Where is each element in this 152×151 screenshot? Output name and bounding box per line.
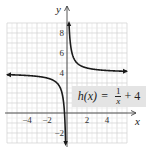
y-tick-label: −2 bbox=[54, 128, 64, 138]
fraction: 1 x bbox=[115, 87, 122, 106]
y-tick-label: 6 bbox=[60, 48, 65, 58]
x-tick-label: −2 bbox=[42, 115, 52, 125]
function-graph: xy−4−224−2468 bbox=[0, 0, 152, 151]
fraction-denominator: x bbox=[116, 97, 120, 106]
y-tick-label: 4 bbox=[60, 68, 65, 78]
x-tick-label: −4 bbox=[22, 115, 32, 125]
x-axis-label: x bbox=[134, 115, 140, 127]
x-tick-label: 2 bbox=[85, 115, 90, 125]
y-tick-label: 8 bbox=[60, 28, 65, 38]
y-axis-label: y bbox=[55, 3, 61, 15]
x-tick-label: 4 bbox=[105, 115, 110, 125]
function-lhs: h(x) bbox=[78, 89, 97, 104]
function-label: h(x) = 1 x + 4 bbox=[72, 86, 146, 107]
curve-right-branch bbox=[69, 23, 127, 71]
equals-sign: = bbox=[101, 89, 108, 104]
function-tail: + 4 bbox=[124, 89, 140, 104]
curve-top-arrow-icon bbox=[67, 21, 71, 26]
